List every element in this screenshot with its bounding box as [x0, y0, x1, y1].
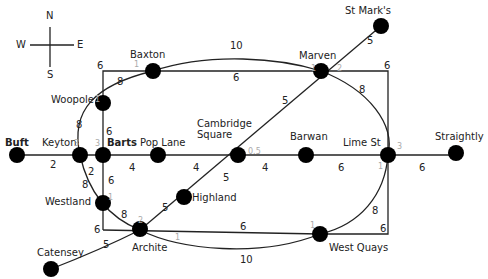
edge-weight: 8: [76, 120, 82, 130]
station-node-lime-st[interactable]: [380, 147, 396, 163]
transfer-penalty: 2: [337, 65, 342, 73]
transfer-penalty: 0.5: [248, 148, 261, 156]
compass-north: N: [46, 10, 53, 21]
edge-weight: 6: [338, 163, 344, 173]
edge-weight: 6: [108, 176, 114, 186]
station-label-barwan: Barwan: [290, 131, 328, 142]
compass-east: E: [77, 39, 83, 50]
station-label-st-marks: St Mark's: [345, 5, 391, 16]
edge-weight: 6: [106, 127, 112, 137]
transfer-penalty: 1: [134, 61, 139, 69]
station-label-baxton: Baxton: [130, 49, 165, 60]
edge-weight: 6: [419, 163, 425, 173]
edge-weight: 5: [367, 36, 373, 46]
station-label-catensey: Catensey: [37, 247, 84, 258]
station-node-straightly[interactable]: [448, 145, 464, 161]
station-node-baxton[interactable]: [145, 63, 161, 79]
transfer-penalty: 1: [378, 163, 383, 171]
station-label-keyton: Keyton: [42, 137, 77, 148]
station-node-cambridge-square[interactable]: [230, 147, 246, 163]
transfer-penalty: 1: [310, 222, 315, 230]
edge-weight: 6: [233, 73, 239, 83]
station-node-keyton[interactable]: [72, 147, 88, 163]
station-label-barts: Barts: [107, 137, 137, 148]
station-label-pop-lane: Pop Lane: [140, 137, 186, 148]
edge-weight: 4: [129, 163, 135, 173]
station-node-pop-lane[interactable]: [150, 147, 166, 163]
transfer-penalty: 3: [95, 140, 100, 148]
station-label-lime-st: Lime St: [343, 137, 381, 148]
edge-weight: 6: [240, 222, 246, 232]
transfer-penalty: 1: [175, 234, 180, 242]
edge-weight: 8: [82, 180, 88, 190]
station-label-west-quays: West Quays: [329, 242, 388, 253]
transfer-penalty: 1: [311, 65, 316, 73]
edge-weight: 5: [103, 240, 109, 250]
edge-weight: 4: [262, 163, 268, 173]
edge-weight: 2: [50, 160, 56, 170]
station-label-straightly: Straightly: [435, 131, 484, 142]
station-node-buft[interactable]: [9, 147, 25, 163]
station-node-catensey[interactable]: [43, 261, 59, 277]
station-label-woopole: Woopole: [51, 94, 94, 105]
station-node-barts[interactable]: [95, 147, 111, 163]
station-node-st-marks[interactable]: [373, 18, 389, 34]
station-label-buft: Buft: [5, 137, 29, 148]
edge-weight: 8: [121, 210, 127, 220]
station-label-cambridge-square: Cambridge Square: [197, 118, 252, 140]
edge-weight: 8: [372, 206, 378, 216]
edge-weight: 6: [97, 61, 103, 71]
edge-weight: 6: [384, 61, 390, 71]
edge-weight: 10: [240, 255, 253, 265]
edge-weight: 5: [223, 173, 229, 183]
station-label-archite: Archite: [132, 242, 167, 253]
edge-weight: 2: [88, 167, 94, 177]
station-label-highland: Highland: [192, 192, 237, 203]
transfer-penalty: 1: [95, 96, 100, 104]
station-node-highland[interactable]: [176, 189, 192, 205]
edge-weight: 8: [359, 85, 365, 95]
transfer-penalty: 2: [138, 217, 143, 225]
edge-weight: 6: [380, 224, 386, 234]
edge-weight: 5: [162, 203, 168, 213]
station-label-westland: Westland: [45, 196, 91, 207]
compass-west: W: [16, 39, 26, 50]
edge-weight: 4: [193, 163, 199, 173]
edge-weight: 5: [282, 96, 288, 106]
edge-weight: 10: [230, 41, 243, 51]
transfer-penalty: 3: [74, 140, 79, 148]
diagonal-route: [140, 26, 381, 230]
station-label-marven: Marven: [299, 50, 336, 61]
transfer-penalty: 3: [397, 143, 402, 151]
station-node-barwan[interactable]: [298, 147, 314, 163]
transfer-penalty: 1: [108, 194, 113, 202]
compass-south: S: [47, 69, 53, 80]
edge-weight: 6: [94, 225, 100, 235]
edge-weight: 8: [117, 77, 123, 87]
